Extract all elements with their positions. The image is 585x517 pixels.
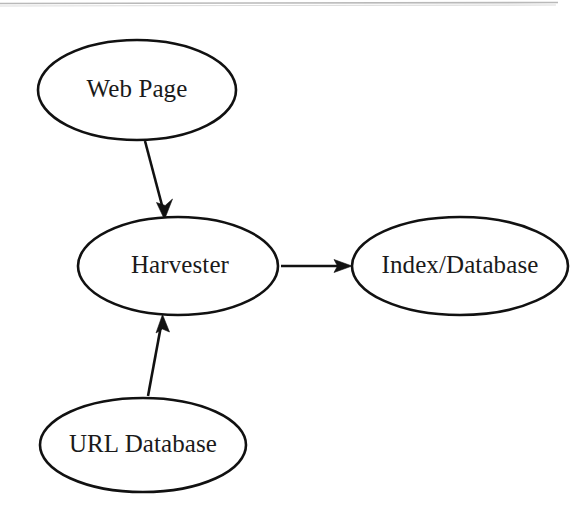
- page-top-edge-line: [0, 3, 558, 4]
- edge-harvester-to-indexdatabase[interactable]: [281, 260, 352, 273]
- url-database-label: URL Database: [69, 430, 217, 457]
- page-top-edge-shadow: [0, 5, 556, 6]
- edge-urldatabase-to-harvester[interactable]: [148, 315, 170, 397]
- node-harvester[interactable]: Harvester: [78, 217, 278, 315]
- edge-webpage-to-harvester-line: [145, 141, 164, 211]
- edge-urldatabase-to-harvester-line: [148, 323, 162, 396]
- harvester-label: Harvester: [131, 251, 230, 278]
- node-url-database[interactable]: URL Database: [40, 398, 246, 492]
- diagram-canvas: Web Page Harvester Index/Database URL Da…: [0, 0, 585, 517]
- node-web-page[interactable]: Web Page: [38, 40, 236, 140]
- edge-webpage-to-harvester[interactable]: [145, 141, 173, 220]
- node-index-database[interactable]: Index/Database: [352, 217, 568, 315]
- edge-urldatabase-to-harvester-arrowhead: [156, 315, 170, 334]
- index-database-label: Index/Database: [382, 251, 539, 278]
- harvester-flow-diagram: Web Page Harvester Index/Database URL Da…: [0, 0, 585, 517]
- web-page-label: Web Page: [87, 75, 188, 102]
